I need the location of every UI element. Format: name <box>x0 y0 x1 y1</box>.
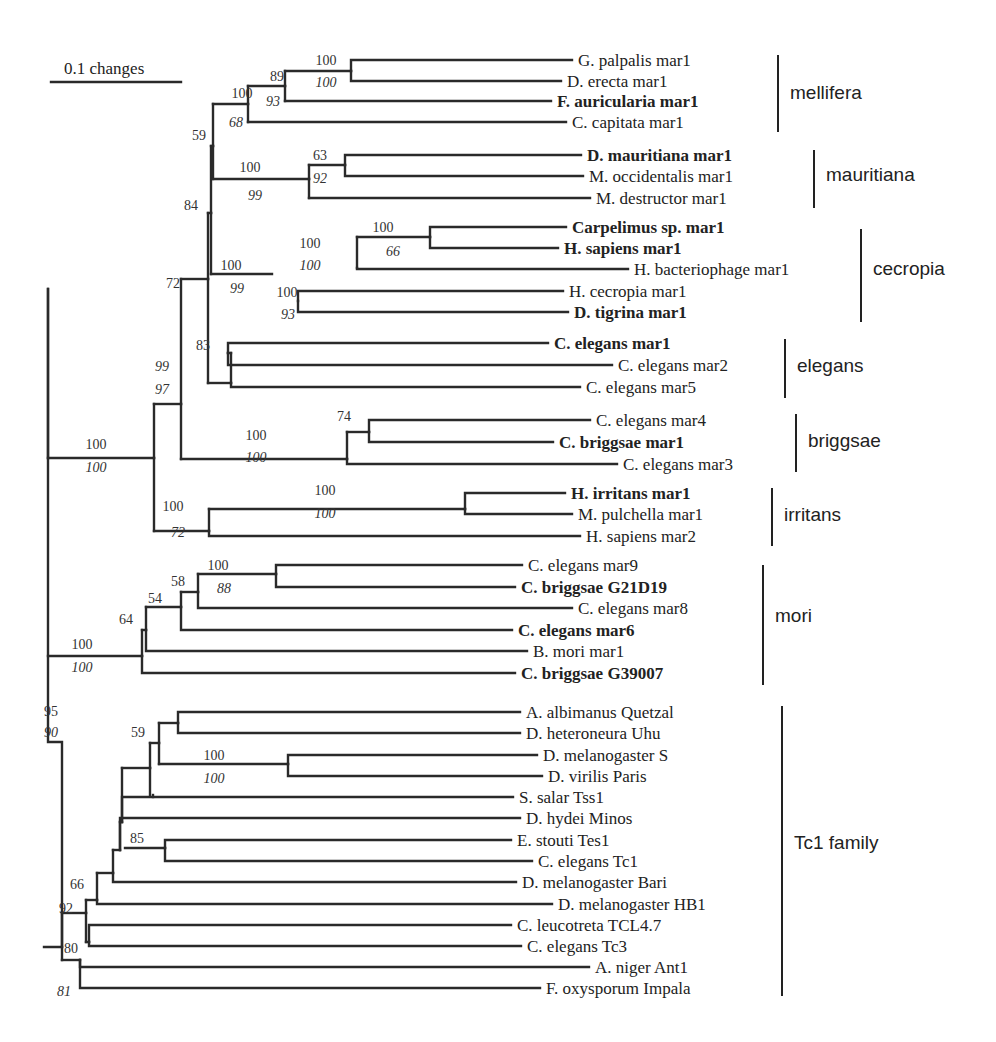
tree-branch <box>181 607 512 630</box>
tree-branch <box>345 155 581 165</box>
taxon-label: C. elegans mar8 <box>578 599 688 618</box>
bootstrap-value: 100 <box>246 428 267 443</box>
taxon-label: D. mauritiana mar1 <box>587 146 732 165</box>
taxon-label: H. sapiens mar1 <box>564 239 682 258</box>
taxon-label: H. cecropia mar1 <box>569 282 687 301</box>
taxon-label: M. destructor mar1 <box>596 189 727 208</box>
bootstrap-value-alt: 99 <box>248 188 262 203</box>
tree-branch <box>298 301 568 312</box>
taxon-label: C. briggsae mar1 <box>559 433 684 452</box>
tree-branch <box>465 493 565 509</box>
tree-branch <box>120 818 520 850</box>
clade-label: mori <box>775 605 812 626</box>
taxon-label: C. capitata mar1 <box>572 113 684 132</box>
bootstrap-value-alt: 92 <box>313 171 327 186</box>
bootstrap-value-alt: 100 <box>246 450 267 465</box>
bootstrap-value-alt: 99 <box>230 281 244 296</box>
bootstrap-value: 54 <box>148 591 162 606</box>
bootstrap-value-alt: 100 <box>204 771 225 786</box>
taxon-label: Carpelimus sp. mar1 <box>572 218 725 237</box>
taxon-label: A. albimanus Quetzal <box>526 703 674 722</box>
taxon-label: C. elegans Tc1 <box>538 852 638 871</box>
tree-branch <box>142 656 515 673</box>
bootstrap-value: 72 <box>166 276 180 291</box>
bootstrap-value: 83 <box>196 338 210 353</box>
bootstrap-value-alt: 72 <box>171 525 185 540</box>
taxon-label: D. hydei Minos <box>526 809 632 828</box>
bootstrap-value: 92 <box>59 901 73 916</box>
clade-label: mauritiana <box>826 164 915 185</box>
tree-branch <box>113 873 516 882</box>
taxon-label: C. elegans mar4 <box>596 411 706 430</box>
taxon-label: D. melanogaster HB1 <box>558 895 706 914</box>
taxon-label: D. erecta mar1 <box>567 72 668 91</box>
taxon-label: C. elegans mar1 <box>554 334 671 353</box>
bootstrap-value: 100 <box>86 437 107 452</box>
taxon-label: C. elegans Tc3 <box>527 937 627 956</box>
bootstrap-value-alt: 68 <box>229 115 243 130</box>
bootstrap-value: 80 <box>64 941 78 956</box>
bootstrap-value: 100 <box>277 285 298 300</box>
bootstrap-value: 100 <box>316 53 337 68</box>
tree-branch <box>288 755 537 764</box>
taxon-label: D. tigrina mar1 <box>574 303 687 322</box>
taxon-label: C. elegans mar3 <box>623 455 733 474</box>
bootstrap-value-alt: 100 <box>316 75 337 90</box>
tree-branch <box>369 420 590 432</box>
tree-branch <box>276 565 522 574</box>
tree-branch <box>298 291 563 301</box>
taxon-label: D. melanogaster Bari <box>522 873 667 892</box>
scale-bar: 0.1 changes <box>51 59 181 82</box>
tree-branch <box>351 60 572 71</box>
tree-branch <box>198 592 572 608</box>
tree-branch <box>178 723 520 733</box>
clade-label: irritans <box>784 504 841 525</box>
bootstrap-value: 100 <box>204 748 225 763</box>
bootstrap-value: 59 <box>192 128 206 143</box>
scale-bar-label: 0.1 changes <box>64 59 144 78</box>
bootstrap-value: 100 <box>240 160 261 175</box>
taxon-label: M. occidentalis mar1 <box>589 167 733 186</box>
bootstrap-value: 100 <box>163 499 184 514</box>
bootstrap-value: 89 <box>270 69 284 84</box>
tree-branch <box>80 960 589 967</box>
tree-branch <box>276 574 515 587</box>
bootstrap-value-alt: 100 <box>300 258 321 273</box>
taxon-label: C. elegans mar5 <box>586 378 696 397</box>
bootstrap-value-alt: 100 <box>86 460 107 475</box>
bootstrap-value-alt: 100 <box>315 506 336 521</box>
bootstrap-value-alt: 93 <box>266 94 280 109</box>
tree-branch <box>357 268 628 269</box>
tree-branch <box>44 289 62 947</box>
taxon-label: S. salar Tss1 <box>519 788 604 807</box>
tree-branch <box>146 630 527 651</box>
tree-branch <box>89 925 511 942</box>
bootstrap-value-alt: 88 <box>217 581 231 596</box>
bootstrap-value: 100 <box>300 236 321 251</box>
taxon-label: G. palpalis mar1 <box>578 51 691 70</box>
tree-branch <box>465 509 572 514</box>
bootstrap-value-alt: 100 <box>72 660 93 675</box>
tree-branch <box>228 343 548 353</box>
taxon-label: C. leucotreta TCL4.7 <box>517 916 662 935</box>
bootstrap-value: 100 <box>373 220 394 235</box>
clade-label: briggsae <box>808 430 881 451</box>
bootstrap-value-alt: 90 <box>44 725 58 740</box>
bootstrap-value: 100 <box>232 86 253 101</box>
bootstrap-value: 64 <box>119 612 133 627</box>
taxon-labels: G. palpalis mar1D. erecta mar1F. auricul… <box>517 51 789 998</box>
clade-groups: melliferamauritianacecropiaelegansbriggs… <box>763 55 945 996</box>
taxon-label: C. briggsae G21D19 <box>521 578 667 597</box>
bootstrap-value-alt: 97 <box>155 382 170 397</box>
tree-branch <box>178 712 520 723</box>
bootstrap-value: 66 <box>70 877 84 892</box>
bootstrap-value-alt: 81 <box>57 984 71 999</box>
bootstrap-value: 59 <box>131 725 145 740</box>
taxon-label: A. niger Ant1 <box>595 958 688 977</box>
bootstrap-value: 100 <box>221 258 242 273</box>
bootstrap-values: 1001008993100685963921009984100661001001… <box>44 53 400 999</box>
tree-branch <box>80 960 540 988</box>
taxon-label: M. pulchella mar1 <box>578 505 703 524</box>
bootstrap-value: 74 <box>337 409 351 424</box>
bootstrap-value: 58 <box>171 574 185 589</box>
